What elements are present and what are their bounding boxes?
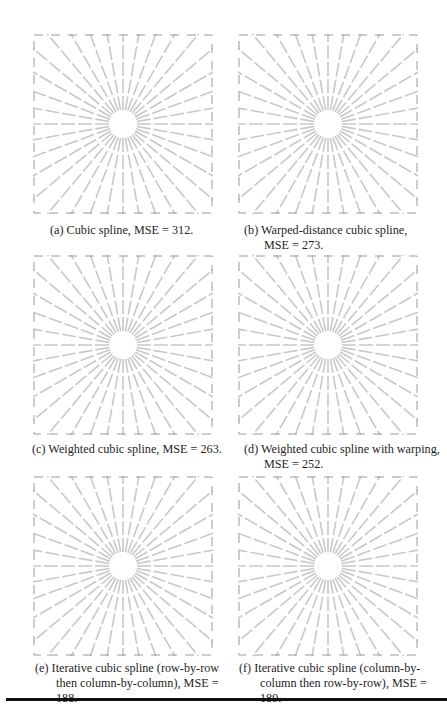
caption-a-text: Cubic spline, MSE = 312.	[67, 223, 194, 237]
caption-e-label: (e)	[35, 661, 49, 675]
starburst-image	[238, 34, 418, 214]
caption-d-label: (d)	[244, 442, 258, 456]
caption-b-line1: Warped-distance cubic spline,	[261, 223, 407, 237]
panel-f-image	[238, 476, 418, 656]
panel-a-image	[33, 34, 213, 214]
panel-b-image	[238, 34, 418, 214]
caption-f-line1: Iterative cubic spline (column-by-	[254, 661, 420, 675]
caption-d: (d) Weighted cubic spline with warping, …	[244, 442, 447, 472]
starburst-image	[238, 476, 418, 656]
starburst-image	[33, 255, 213, 435]
caption-f-line2: column then row-by-row), MSE = 189.	[239, 676, 447, 706]
caption-e-line1: Iterative cubic spline (row-by-row	[52, 661, 220, 675]
caption-b-label: (b)	[244, 223, 258, 237]
starburst-image	[33, 476, 213, 656]
caption-c-label: (c)	[32, 442, 46, 456]
caption-b: (b) Warped-distance cubic spline, MSE = …	[244, 223, 444, 253]
caption-a: (a) Cubic spline, MSE = 312.	[50, 223, 230, 238]
starburst-image	[33, 34, 213, 214]
page-bottom-rule	[6, 698, 447, 701]
caption-f-label: (f)	[239, 661, 251, 675]
caption-e-line2: then column-by-column), MSE = 188.	[35, 676, 240, 706]
caption-d-line2: MSE = 252.	[244, 457, 447, 472]
caption-d-line1: Weighted cubic spline with warping,	[261, 442, 440, 456]
caption-b-line2: MSE = 273.	[244, 238, 444, 253]
starburst-image	[238, 255, 418, 435]
caption-c-text: Weighted cubic spline, MSE = 263.	[48, 442, 221, 456]
panel-e-image	[33, 476, 213, 656]
panel-c-image	[33, 255, 213, 435]
caption-c: (c) Weighted cubic spline, MSE = 263.	[32, 442, 232, 457]
panel-d-image	[238, 255, 418, 435]
caption-a-label: (a)	[50, 223, 64, 237]
